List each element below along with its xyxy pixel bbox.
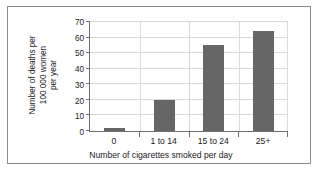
bar (154, 100, 175, 131)
x-tick-slot: 15 to 24 (189, 132, 239, 148)
bar (253, 31, 274, 131)
x-tick-slot: 1 to 14 (139, 132, 189, 148)
y-axis-title-line-3: per year (49, 35, 60, 114)
chart-figure: Number of deaths per 100 000 women per y… (0, 0, 322, 176)
x-tick-label: 15 to 24 (189, 136, 239, 146)
y-tick-label: 30 (60, 80, 84, 89)
y-tick-label: 50 (60, 49, 84, 58)
bar (104, 128, 125, 131)
x-axis-title: Number of cigarettes smoked per day (16, 150, 306, 160)
x-tick-label: 1 to 14 (139, 136, 189, 146)
x-tick-slot: 25+ (238, 132, 288, 148)
x-tick-label: 0 (89, 136, 139, 146)
y-tick-label: 40 (60, 65, 84, 74)
y-tick-label: 60 (60, 33, 84, 42)
y-axis-title-text: Number of deaths per 100 000 women per y… (28, 35, 60, 114)
y-tick-label: 70 (60, 18, 84, 27)
y-tick-label: 10 (60, 112, 84, 121)
x-axis-tick-labels: 01 to 1415 to 2425+ (89, 132, 288, 148)
x-tick-slot: 0 (89, 132, 139, 148)
y-tick-label: 20 (60, 96, 84, 105)
y-tick-label: 0 (60, 128, 84, 137)
bar-slot (239, 22, 289, 131)
x-tick-label: 25+ (238, 136, 288, 146)
bar-slot (90, 22, 140, 131)
plot-area (89, 22, 288, 132)
bar-slot (140, 22, 190, 131)
bar-slot (189, 22, 239, 131)
y-axis-title-line-1: Number of deaths per (28, 35, 39, 114)
bar (203, 45, 224, 131)
bar-series (90, 22, 288, 131)
y-axis-title-line-2: 100 000 women (39, 35, 50, 114)
y-axis-tick-labels: 010203040506070 (60, 18, 84, 134)
